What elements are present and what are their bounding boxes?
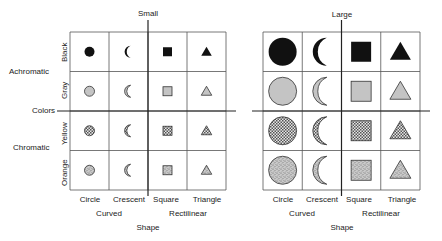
square-gray-small-icon xyxy=(163,87,172,96)
triangle-orange-small-icon xyxy=(201,165,212,174)
circle-gray-large-icon xyxy=(269,77,297,105)
shape-color-diagram: Small Black Gray Yellow Orange Achromati… xyxy=(0,0,442,241)
circle-black-large-icon xyxy=(269,38,297,66)
square-black-small-icon xyxy=(163,47,172,56)
grid-large xyxy=(252,20,430,196)
crescent-black-small-icon xyxy=(125,46,131,58)
triangle-yellow-large-icon xyxy=(390,121,411,139)
triangle-orange-large-icon xyxy=(390,160,411,178)
circle-orange-large-icon xyxy=(269,156,297,184)
square-yellow-small-icon xyxy=(163,126,172,135)
crescent-gray-large-icon xyxy=(313,77,327,105)
circle-orange-small-icon xyxy=(85,165,95,175)
diagram-graphics xyxy=(0,0,442,241)
triangle-gray-small-icon xyxy=(201,86,212,95)
circle-yellow-small-icon xyxy=(85,126,95,136)
crescent-orange-large-icon xyxy=(313,156,327,184)
circle-gray-small-icon xyxy=(85,86,95,96)
triangle-black-large-icon xyxy=(390,42,411,60)
crescent-orange-small-icon xyxy=(125,164,131,176)
circle-yellow-large-icon xyxy=(269,117,297,145)
triangle-yellow-small-icon xyxy=(201,126,212,135)
triangle-gray-large-icon xyxy=(390,81,411,99)
square-gray-large-icon xyxy=(351,81,371,101)
grid-small xyxy=(57,20,236,196)
square-orange-large-icon xyxy=(351,160,371,180)
triangle-black-small-icon xyxy=(201,47,212,56)
crescent-yellow-small-icon xyxy=(125,125,131,137)
square-orange-small-icon xyxy=(163,166,172,175)
square-black-large-icon xyxy=(351,42,371,62)
crescent-black-large-icon xyxy=(313,38,327,66)
crescent-gray-small-icon xyxy=(125,85,131,97)
circle-black-small-icon xyxy=(85,47,95,57)
crescent-yellow-large-icon xyxy=(313,117,327,145)
square-yellow-large-icon xyxy=(351,121,371,141)
